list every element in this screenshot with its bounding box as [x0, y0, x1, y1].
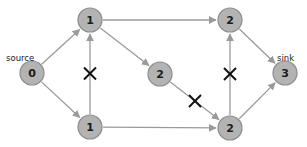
node-n0: 0: [20, 61, 44, 85]
node-n1b: 1: [78, 115, 102, 139]
edge-n1a-n2m: [100, 28, 149, 66]
node-n3: 3: [273, 61, 297, 85]
node-n1a: 1: [78, 8, 102, 32]
node-label: 1: [86, 121, 94, 134]
sink-label: sink: [277, 53, 294, 63]
node-label: 2: [226, 122, 234, 135]
node-label: 3: [281, 67, 289, 80]
source-label: source: [6, 53, 34, 63]
edge-n2b-n3: [239, 83, 275, 119]
edge-n1b-n2b: [103, 127, 216, 128]
edge-n2a-n3: [239, 29, 275, 63]
edge-n0-n1b: [42, 82, 80, 118]
node-n2a: 2: [218, 8, 242, 32]
flow-network-diagram: 0112223 source sink: [0, 0, 307, 147]
edge-n0-n1a: [42, 29, 80, 64]
nodes-layer: 0112223: [20, 8, 297, 140]
node-label: 2: [226, 14, 234, 27]
blocked-cross-icon: [189, 95, 201, 107]
node-n2b: 2: [218, 116, 242, 140]
node-label: 2: [156, 68, 164, 81]
node-label: 1: [86, 14, 94, 27]
node-label: 0: [28, 67, 36, 80]
node-n2m: 2: [148, 62, 172, 86]
